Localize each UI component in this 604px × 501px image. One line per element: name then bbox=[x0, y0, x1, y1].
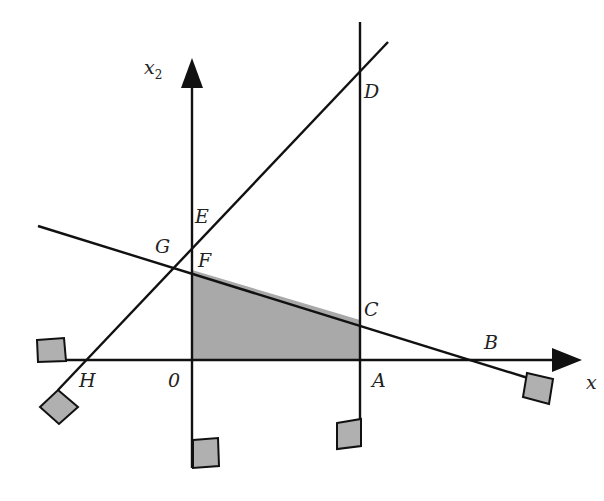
x-axis-arrow-icon bbox=[552, 348, 582, 372]
x-axis-label: x bbox=[586, 373, 597, 392]
point-label-H: H bbox=[79, 371, 96, 390]
point-label-O: 0 bbox=[168, 371, 180, 390]
point-label-D: D bbox=[364, 82, 379, 101]
point-label-C: C bbox=[364, 300, 379, 319]
x2-axis-arrow-icon bbox=[181, 58, 203, 88]
halfplane-marker-line-AD bbox=[337, 419, 361, 449]
point-label-A: A bbox=[372, 371, 386, 390]
halfplane-marker-x2-axis bbox=[193, 438, 219, 468]
x2-axis-label-subscript: 2 bbox=[155, 68, 163, 82]
halfplane-marker-line-GB bbox=[523, 373, 553, 404]
x2-axis-label: x2 bbox=[144, 58, 162, 81]
point-label-B: B bbox=[484, 333, 498, 352]
lp-diagram bbox=[0, 0, 604, 501]
point-label-G: G bbox=[155, 237, 170, 256]
point-label-E: E bbox=[195, 207, 209, 226]
point-label-F: F bbox=[198, 251, 211, 270]
x2-axis-label-base: x bbox=[144, 56, 155, 78]
halfplane-marker-x-axis bbox=[37, 338, 66, 362]
halfplane-marker-line-HD bbox=[40, 390, 78, 424]
feasible-region bbox=[192, 270, 360, 360]
